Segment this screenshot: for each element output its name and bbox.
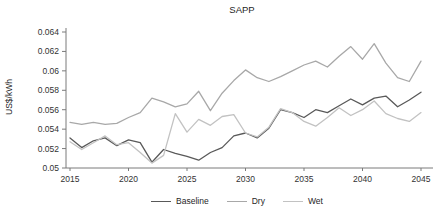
svg-text:2025: 2025	[178, 174, 197, 184]
svg-text:2030: 2030	[236, 174, 255, 184]
legend-item-dry: Dry	[227, 196, 265, 206]
legend-label-dry: Dry	[252, 196, 265, 206]
svg-text:2015: 2015	[61, 174, 80, 184]
svg-text:2020: 2020	[119, 174, 138, 184]
svg-text:0.058: 0.058	[38, 85, 60, 95]
svg-text:0.05: 0.05	[42, 163, 59, 173]
dry-line-swatch	[227, 201, 247, 202]
svg-text:0.052: 0.052	[38, 144, 60, 154]
baseline-line-swatch	[151, 201, 171, 202]
plot-area: 0.050.0520.0540.0560.0580.060.0620.06420…	[0, 0, 444, 215]
svg-text:2045: 2045	[412, 174, 431, 184]
chart-container: SAPP US$/kWh 0.050.0520.0540.0560.0580.0…	[0, 0, 444, 215]
svg-text:0.054: 0.054	[38, 124, 60, 134]
wet-line-swatch	[283, 201, 303, 202]
svg-text:0.06: 0.06	[42, 66, 59, 76]
legend: Baseline Dry Wet	[50, 196, 424, 206]
legend-label-baseline: Baseline	[176, 196, 209, 206]
legend-item-baseline: Baseline	[151, 196, 209, 206]
svg-text:0.062: 0.062	[38, 46, 60, 56]
legend-item-wet: Wet	[283, 196, 323, 206]
legend-label-wet: Wet	[308, 196, 323, 206]
svg-text:2040: 2040	[353, 174, 372, 184]
svg-text:0.064: 0.064	[38, 27, 60, 37]
svg-text:0.056: 0.056	[38, 105, 60, 115]
svg-text:2035: 2035	[295, 174, 314, 184]
